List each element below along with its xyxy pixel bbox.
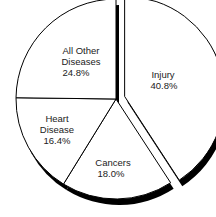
label-cancers-value: 18.0%	[98, 168, 125, 179]
pie-chart: Injury 40.8% All Other Diseases 24.8% He…	[0, 0, 216, 217]
label-injury-value: 40.8%	[151, 80, 178, 91]
label-heart-value: 16.4%	[44, 135, 71, 146]
label-other-name-2: Diseases	[61, 56, 100, 67]
label-injury-name: Injury	[151, 69, 174, 80]
label-heart-name-2: Disease	[40, 124, 74, 135]
label-other-value: 24.8%	[63, 67, 90, 78]
label-other-name-1: All Other	[63, 45, 100, 56]
label-heart-name-1: Heart	[45, 113, 69, 124]
label-cancers-name: Cancers	[95, 157, 131, 168]
